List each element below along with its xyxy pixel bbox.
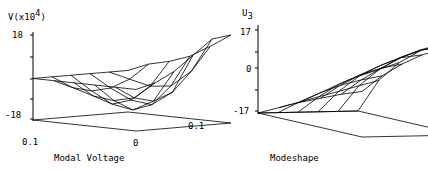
- left-mesh-surface: [33, 35, 231, 110]
- right-base-plane: [258, 111, 428, 137]
- figure-root: V(x104) 18 -18 0.1 0 0.1 Modal Voltage U…: [0, 0, 428, 171]
- panel-modeshape: U3 17 0 -17 Modeshape: [214, 0, 428, 171]
- left-surface-svg: [0, 0, 214, 171]
- right-axis-group: [255, 25, 258, 114]
- left-axis-group: [30, 32, 33, 121]
- right-mesh-surface: [258, 44, 428, 113]
- right-surface-svg: [214, 0, 428, 171]
- panel-modal-voltage: V(x104) 18 -18 0.1 0 0.1 Modal Voltage: [0, 0, 214, 171]
- left-base-plane: [33, 112, 231, 131]
